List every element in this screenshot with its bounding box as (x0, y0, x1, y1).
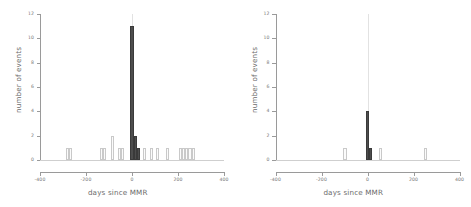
y-tick (272, 111, 276, 112)
x-tick (414, 172, 415, 176)
y-tick (37, 160, 41, 161)
x-tick-label: 400 (448, 177, 471, 182)
x-tick (322, 172, 323, 176)
histogram-bar (111, 136, 114, 160)
y-axis-line (276, 14, 277, 160)
y-tick-label: 0 (254, 157, 270, 162)
two-panel-histogram-figure: 024681012-400-2000200400days since MMRnu… (0, 0, 471, 207)
x-tick (132, 172, 133, 176)
histogram-bar (343, 148, 346, 160)
x-tick-label: -400 (264, 177, 288, 182)
y-tick (272, 136, 276, 137)
histogram-bar (156, 148, 159, 160)
x-axis-title: days since MMR (236, 188, 471, 197)
x-tick-label: 400 (212, 177, 236, 182)
histogram-bar (166, 148, 169, 160)
x-tick (86, 172, 87, 176)
baseline (40, 160, 224, 161)
x-tick-label: -200 (74, 177, 98, 182)
x-tick (276, 172, 277, 176)
x-tick (178, 172, 179, 176)
x-tick (368, 172, 369, 176)
histogram-bar (379, 148, 382, 160)
y-tick (37, 136, 41, 137)
histogram-bar (121, 148, 124, 160)
y-tick (37, 63, 41, 64)
x-tick (224, 172, 225, 176)
baseline (276, 160, 460, 161)
y-axis-title: number of events (14, 47, 23, 113)
histogram-bar (143, 148, 146, 160)
y-tick (37, 87, 41, 88)
y-tick (37, 38, 41, 39)
histogram-bar-highlight (369, 148, 372, 160)
y-tick-label: 12 (254, 11, 270, 16)
y-tick-label: 2 (18, 133, 34, 138)
histogram-bar (192, 148, 195, 160)
y-axis-title: number of events (250, 47, 259, 113)
y-tick (272, 63, 276, 64)
y-tick (272, 160, 276, 161)
histogram-bar (69, 148, 72, 160)
histogram-bar (150, 148, 153, 160)
x-tick-label: 200 (166, 177, 190, 182)
x-tick-label: 0 (120, 177, 144, 182)
histogram-bar (424, 148, 427, 160)
y-tick-label: 0 (18, 157, 34, 162)
x-tick (460, 172, 461, 176)
y-tick (272, 14, 276, 15)
y-axis-line (40, 14, 41, 160)
y-tick (272, 38, 276, 39)
y-tick (272, 87, 276, 88)
histogram-bar (103, 148, 106, 160)
x-tick-label: -200 (310, 177, 334, 182)
x-tick-label: 200 (402, 177, 426, 182)
y-tick (37, 111, 41, 112)
y-tick (37, 14, 41, 15)
x-tick (40, 172, 41, 176)
y-tick-label: 10 (18, 35, 34, 40)
y-tick-label: 12 (18, 11, 34, 16)
chart-panel-right: 024681012-400-2000200400days since MMRnu… (236, 0, 471, 207)
x-axis-title: days since MMR (0, 188, 236, 197)
chart-panel-left: 024681012-400-2000200400days since MMRnu… (0, 0, 236, 207)
histogram-bar-highlight (137, 148, 140, 160)
y-tick-label: 2 (254, 133, 270, 138)
y-tick-label: 10 (254, 35, 270, 40)
x-tick-label: -400 (28, 177, 52, 182)
x-tick-label: 0 (356, 177, 380, 182)
